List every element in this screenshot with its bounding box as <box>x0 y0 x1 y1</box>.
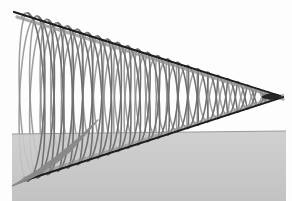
conical-helix-figure <box>0 0 292 201</box>
figure-root <box>0 0 292 201</box>
